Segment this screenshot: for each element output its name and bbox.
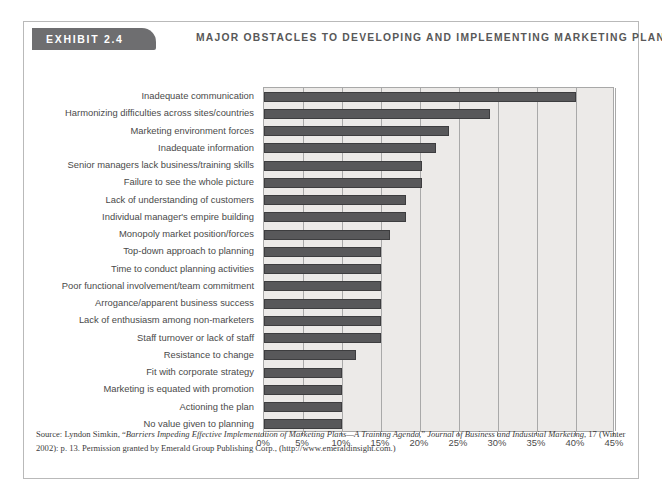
bar-series — [264, 88, 613, 431]
y-axis-label: Harmonizing difficulties across sites/co… — [24, 104, 260, 121]
y-axis-label: Marketing environment forces — [24, 122, 260, 139]
bar — [264, 264, 381, 274]
bar — [264, 247, 381, 257]
bar — [264, 385, 342, 395]
y-axis-label: Staff turnover or lack of staff — [24, 329, 260, 346]
y-axis-label: Fit with corporate strategy — [24, 363, 260, 380]
y-axis-label: Time to conduct planning activities — [24, 260, 260, 277]
bar-row — [264, 364, 613, 381]
source-journal-name: Journal of Business and Industrial Marke… — [427, 429, 584, 439]
y-axis-label: Individual manager's empire building — [24, 208, 260, 225]
y-axis-label: Failure to see the whole picture — [24, 173, 260, 190]
bar — [264, 143, 436, 153]
y-axis-label: Top-down approach to planning — [24, 242, 260, 259]
bar-row — [264, 261, 613, 278]
y-axis-label: Monopoly market position/forces — [24, 225, 260, 242]
y-axis-label: Inadequate information — [24, 139, 260, 156]
y-axis-label: Inadequate communication — [24, 87, 260, 104]
bar — [264, 178, 422, 188]
y-axis-label: Marketing is equated with promotion — [24, 380, 260, 397]
y-axis-labels: Inadequate communicationHarmonizing diff… — [24, 87, 260, 432]
bar-row — [264, 295, 613, 312]
bar — [264, 402, 342, 412]
bar-row — [264, 381, 613, 398]
bar-row — [264, 105, 613, 122]
bar-row — [264, 226, 613, 243]
bar-row — [264, 192, 613, 209]
bar — [264, 368, 342, 378]
bar — [264, 281, 381, 291]
exhibit-title: MAJOR OBSTACLES TO DEVELOPING AND IMPLEM… — [196, 32, 662, 43]
exhibit-header: EXHIBIT 2.4 MAJOR OBSTACLES TO DEVELOPIN… — [24, 22, 638, 58]
bar — [264, 299, 381, 309]
y-axis-label: Resistance to change — [24, 346, 260, 363]
bar-row — [264, 312, 613, 329]
source-prefix: Source: Lyndon Simkin, “ — [36, 429, 126, 439]
bar — [264, 333, 381, 343]
bar-row — [264, 174, 613, 191]
y-axis-label: Lack of understanding of customers — [24, 191, 260, 208]
exhibit-number-tab: EXHIBIT 2.4 — [32, 28, 140, 50]
source-article-title: Barriers Impeding Effective Implementati… — [126, 429, 421, 439]
bar-row — [264, 399, 613, 416]
bar — [264, 109, 490, 119]
bar-row — [264, 347, 613, 364]
bar-row — [264, 140, 613, 157]
bar — [264, 212, 406, 222]
bar — [264, 316, 381, 326]
bar — [264, 230, 390, 240]
y-axis-label: Senior managers lack business/training s… — [24, 156, 260, 173]
y-axis-label: Actioning the plan — [24, 398, 260, 415]
bar — [264, 195, 406, 205]
bar — [264, 126, 449, 136]
y-axis-label: Lack of enthusiasm among non-marketers — [24, 311, 260, 328]
bar — [264, 161, 422, 171]
y-axis-label: Poor functional involvement/team commitm… — [24, 277, 260, 294]
exhibit-figure: EXHIBIT 2.4 MAJOR OBSTACLES TO DEVELOPIN… — [0, 0, 662, 504]
source-note: Source: Lyndon Simkin, “Barriers Impedin… — [36, 428, 628, 455]
bar-row — [264, 123, 613, 140]
bar-row — [264, 209, 613, 226]
bar-row — [264, 157, 613, 174]
plot-area — [263, 87, 614, 432]
exhibit-card: EXHIBIT 2.4 MAJOR OBSTACLES TO DEVELOPIN… — [23, 21, 639, 479]
bar — [264, 92, 576, 102]
gridline — [615, 88, 616, 431]
bar-row — [264, 278, 613, 295]
bar-row — [264, 243, 613, 260]
y-axis-label: Arrogance/apparent business success — [24, 294, 260, 311]
chart-area: Inadequate communicationHarmonizing diff… — [24, 58, 638, 438]
bar-row — [264, 330, 613, 347]
bar-row — [264, 88, 613, 105]
bar — [264, 350, 356, 360]
